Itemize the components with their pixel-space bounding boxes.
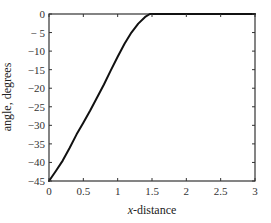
x-axis-ticks: 00.511.522.53 <box>46 14 258 197</box>
y-tick-label: −45 <box>28 175 46 187</box>
y-tick-label: −10 <box>28 45 46 57</box>
x-tick-label: 2 <box>184 185 190 197</box>
plot-area <box>49 14 255 181</box>
plot-frame <box>49 14 255 181</box>
y-tick-label: 0 <box>40 8 46 20</box>
series-line-0 <box>49 14 255 181</box>
x-tick-label: 1 <box>115 185 121 197</box>
y-tick-label: −20 <box>28 82 46 94</box>
x-tick-label: 2.5 <box>214 185 228 197</box>
y-tick-label: − 5 <box>31 27 46 39</box>
x-axis-label: x-distance <box>127 203 177 217</box>
x-tick-label: 0 <box>46 185 52 197</box>
y-tick-label: −30 <box>28 119 46 131</box>
line-chart: 00.511.522.53 0− 5−10−15−20−25−30−35−40−… <box>0 0 271 223</box>
y-axis-label: angle, degrees <box>0 62 14 131</box>
x-tick-label: 3 <box>252 185 258 197</box>
y-tick-label: −35 <box>28 138 46 150</box>
y-tick-label: −25 <box>28 101 46 113</box>
x-tick-label: 1.5 <box>145 185 159 197</box>
x-tick-label: 0.5 <box>76 185 90 197</box>
y-tick-label: −40 <box>28 156 46 168</box>
y-tick-label: −15 <box>28 64 46 76</box>
